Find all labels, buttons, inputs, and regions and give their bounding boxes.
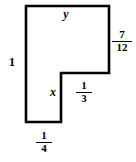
label-inner-horizontal-side-fraction: 1 3 — [76, 80, 92, 104]
label-inner-vertical-side-x: x — [47, 86, 59, 98]
fraction-denominator: 4 — [36, 143, 52, 154]
label-right-side-fraction: 7 12 — [112, 29, 132, 53]
fraction-numerator: 7 — [112, 29, 132, 40]
fraction-numerator: 1 — [76, 80, 92, 91]
l-shape-figure — [0, 0, 136, 162]
label-top-side-y: y — [59, 8, 73, 20]
label-bottom-side-fraction: 1 4 — [36, 130, 52, 154]
label-left-side-1: 1 — [5, 56, 19, 68]
fraction-denominator: 12 — [112, 42, 132, 53]
fraction-denominator: 3 — [76, 93, 92, 104]
fraction-numerator: 1 — [36, 130, 52, 141]
